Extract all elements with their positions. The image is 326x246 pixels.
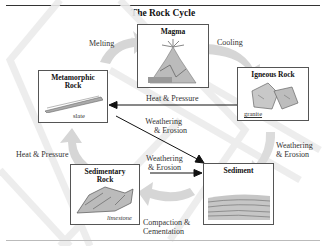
metamorphic-rock-box: Metamorphic Rock slate <box>38 70 108 123</box>
sedimentary-rock-box: Sedimentary Rock limestone <box>70 164 140 225</box>
metamorphic-rock-label: Metamorphic Rock <box>39 74 107 90</box>
weathering-horizontal-arrowhead-icon <box>194 170 202 177</box>
weathering-diagonal-arrowhead-icon <box>195 155 204 163</box>
magma-label: Magma <box>138 28 208 36</box>
heat-pressure-arrowhead-icon <box>109 102 117 109</box>
slate-sample-label: slate <box>73 112 85 119</box>
compaction-cementation-label: Compaction & Cementation <box>143 219 190 236</box>
compaction-arrow-icon <box>138 182 195 206</box>
igneous-rock-label: Igneous Rock <box>238 71 308 79</box>
heat-pressure-left-label: Heat & Pressure <box>16 151 68 160</box>
weathering-horizontal-label: Weathering & Erosion <box>146 155 183 172</box>
granite-sample-label: granite <box>244 110 262 117</box>
igneous-rock-box: Igneous Rock granite <box>237 67 309 121</box>
slate-icon <box>43 95 103 113</box>
sediment-layers-icon <box>208 192 270 220</box>
cooling-label: Cooling <box>217 39 243 48</box>
sediment-box: Sediment <box>203 163 274 225</box>
bottom-rule <box>6 240 320 241</box>
granite-icon <box>244 81 302 111</box>
sediment-label: Sediment <box>204 167 273 175</box>
heat-pressure-center-label: Heat & Pressure <box>146 95 198 104</box>
volcano-icon <box>146 39 200 85</box>
magma-box: Magma <box>137 24 209 88</box>
melting-label: Melting <box>89 40 114 49</box>
weathering-diagonal-label: Weathering & Erosion <box>140 118 187 135</box>
limestone-sample-label: limestone <box>107 214 132 221</box>
sedimentary-rock-label: Sedimentary Rock <box>71 168 139 184</box>
limestone-icon <box>75 185 135 215</box>
weathering-right-label: Weathering & Erosion <box>276 142 313 159</box>
